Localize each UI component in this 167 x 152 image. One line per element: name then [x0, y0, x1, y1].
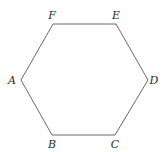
vertex-label-d: D: [149, 74, 159, 87]
vertex-label-f: F: [47, 9, 56, 22]
vertex-label-b: B: [47, 138, 56, 151]
hexagon-outline: [21, 24, 148, 135]
hexagon-diagram: A B C D E F: [0, 0, 167, 152]
vertex-label-e: E: [111, 9, 120, 22]
vertex-labels: A B C D E F: [7, 9, 159, 151]
vertex-label-c: C: [111, 138, 120, 151]
vertex-label-a: A: [7, 74, 16, 87]
